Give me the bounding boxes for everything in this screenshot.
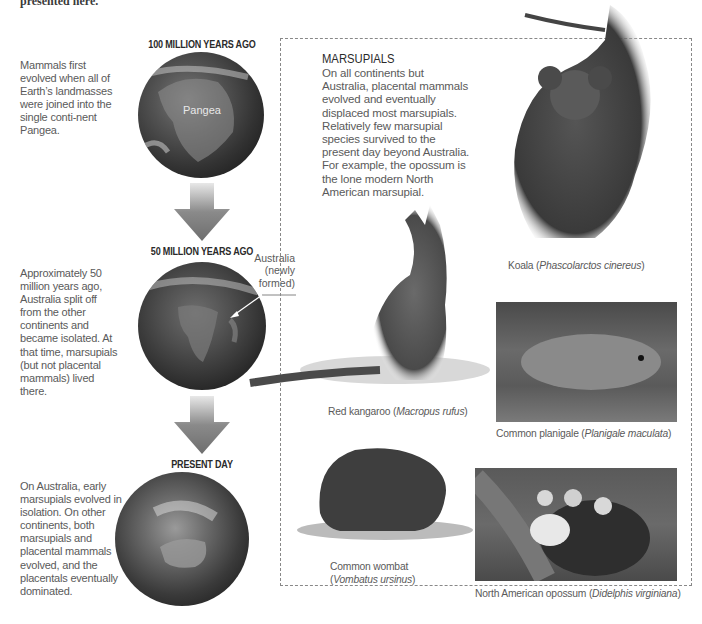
era-description-present: On Australia, early marsupials evolved i… [20, 480, 128, 598]
down-arrow-icon [172, 396, 232, 458]
era-title-present: PRESENT DAY [142, 458, 262, 470]
marsupials-title: MARSUPIALS [322, 52, 395, 66]
australia-landmass-icon [115, 472, 249, 606]
caption-koala: Koala (Phascolarctos cinereus) [508, 260, 645, 271]
era-description-50mya: Approximately 50 million years ago, Aust… [20, 267, 120, 398]
caption-kangaroo: Red kangaroo (Macropus rufus) [328, 406, 468, 417]
pangea-label: Pangea [183, 104, 221, 116]
globe-pangea: Pangea [138, 52, 264, 178]
era-title-100mya: 100 MILLION YEARS AGO [142, 38, 262, 50]
koala-photo [495, 0, 685, 245]
cut-off-header: presented here. [20, 0, 98, 9]
caption-wombat: Common wombat (Vombatus ursinus) [330, 560, 415, 586]
marsupials-body: On all continents but Australia, placent… [322, 67, 472, 199]
era-description-100mya: Mammals first evolved when all of Earth’… [20, 59, 120, 138]
kangaroo-photo [240, 205, 490, 390]
planigale-photo [496, 302, 677, 422]
wombat-photo [290, 438, 475, 543]
down-arrow-icon [172, 183, 232, 245]
caption-opossum: North American opossum (Didelphis virgin… [475, 588, 681, 599]
globe-present-day [115, 472, 249, 606]
opossum-photo [475, 468, 677, 581]
caption-planigale: Common planigale (Planigale maculata) [496, 428, 671, 439]
